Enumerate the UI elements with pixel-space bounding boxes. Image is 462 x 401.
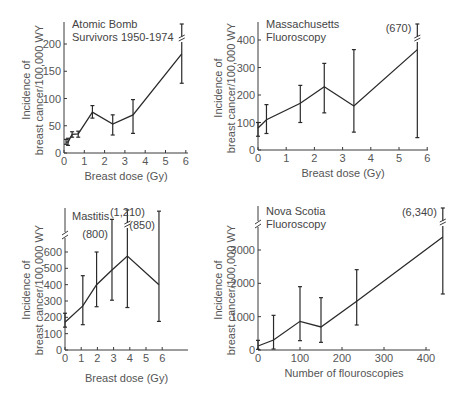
y-tick-label: 0 — [55, 147, 61, 159]
x-axis-label: Number of flouroscopies — [284, 367, 404, 379]
y-tick-label: 100 — [237, 117, 255, 129]
y-axis-label: Incidence of — [212, 259, 224, 319]
y-axis-label: breast cancer/100,000 WY — [33, 224, 45, 355]
x-axis-label: Breast dose (Gy) — [84, 170, 167, 182]
data-line — [258, 50, 417, 128]
x-tick-label: 6 — [183, 155, 189, 167]
y-tick-label: 0 — [56, 344, 62, 356]
y-tick-label: 300 — [44, 295, 62, 307]
chart-title: Fluoroscopy — [266, 218, 326, 230]
chart-title: Nova Scotia — [266, 205, 326, 217]
y-tick-label: 0 — [249, 144, 255, 156]
x-tick-label: 100 — [291, 352, 309, 364]
y-tick-label: 50 — [49, 120, 61, 132]
x-tick-label: 1 — [81, 155, 87, 167]
x-tick-label: 0 — [255, 152, 261, 164]
x-tick-label: 4 — [127, 352, 133, 364]
axis-break-icon — [255, 220, 261, 228]
chart-panel-novascotia: 01002003004000100020003000Number of flou… — [212, 205, 447, 379]
y-axis-label: breast cancer/100,000 WY — [225, 224, 237, 355]
y-tick-label: 400 — [237, 34, 255, 46]
chart-title: Fluoroscopy — [266, 31, 326, 43]
data-line — [258, 237, 443, 346]
x-tick-label: 2 — [102, 155, 108, 167]
x-tick-label: 1 — [283, 152, 289, 164]
x-tick-label: 400 — [417, 352, 435, 364]
data-annotation: (670) — [386, 22, 412, 34]
y-axis-label: Incidence of — [20, 59, 32, 119]
y-tick-label: 400 — [44, 279, 62, 291]
y-tick-label: 100 — [44, 328, 62, 340]
chart-title: Survivors 1950-1974 — [72, 31, 174, 43]
x-tick-label: 300 — [375, 352, 393, 364]
chart-panel-massachusetts: 01234560100200300400Breast dose (Gy)Inci… — [212, 18, 430, 179]
data-line — [66, 54, 182, 142]
x-tick-label: 2 — [94, 352, 100, 364]
x-tick-label: 3 — [122, 155, 128, 167]
x-tick-label: 5 — [162, 155, 168, 167]
y-axis-label: breast cancer/100,000 WY — [225, 22, 237, 153]
x-tick-label: 0 — [255, 352, 261, 364]
chart-panel-atomic: 0123456050100150200Breast dose (Gy)Incid… — [20, 18, 189, 182]
y-tick-label: 100 — [43, 93, 61, 105]
x-tick-label: 3 — [340, 152, 346, 164]
chart-title: Mastitis — [72, 210, 110, 222]
data-annotation: (850) — [129, 219, 155, 231]
x-tick-label: 5 — [396, 152, 402, 164]
chart-title: Massachusetts — [266, 18, 340, 30]
axis-break-icon — [62, 231, 68, 239]
x-tick-label: 5 — [143, 352, 149, 364]
y-tick-label: 200 — [237, 89, 255, 101]
y-axis-label: Incidence of — [212, 57, 224, 117]
chart-title: Atomic Bomb — [72, 18, 137, 30]
y-tick-label: 500 — [44, 262, 62, 274]
x-tick-label: 0 — [61, 155, 67, 167]
x-axis-label: Breast dose (Gy) — [85, 372, 168, 384]
x-axis-label: Breast dose (Gy) — [301, 167, 384, 179]
x-tick-label: 6 — [424, 152, 430, 164]
x-tick-label: 0 — [62, 352, 68, 364]
x-tick-label: 200 — [333, 352, 351, 364]
data-annotation: (1,210) — [110, 206, 145, 218]
y-tick-label: 150 — [43, 65, 61, 77]
data-annotation: (800) — [82, 228, 108, 240]
y-tick-label: 0 — [249, 344, 255, 356]
chart-canvas: 0123456050100150200Breast dose (Gy)Incid… — [0, 0, 462, 401]
x-tick-label: 4 — [368, 152, 374, 164]
x-tick-label: 3 — [111, 352, 117, 364]
x-tick-label: 4 — [142, 155, 148, 167]
figure: 0123456050100150200Breast dose (Gy)Incid… — [0, 0, 462, 401]
y-axis-label: breast cancer/100,000 WY — [33, 24, 45, 155]
x-tick-label: 2 — [311, 152, 317, 164]
x-tick-label: 6 — [159, 352, 165, 364]
x-tick-label: 1 — [78, 352, 84, 364]
y-axis-label: Incidence of — [20, 259, 32, 319]
y-tick-label: 300 — [237, 62, 255, 74]
chart-panel-mastitis: 01234560100200300400500600Breast dose (G… — [20, 206, 188, 384]
data-annotation: (6,340) — [402, 206, 437, 218]
y-tick-label: 200 — [44, 311, 62, 323]
y-tick-label: 600 — [44, 246, 62, 258]
y-tick-label: 200 — [43, 38, 61, 50]
